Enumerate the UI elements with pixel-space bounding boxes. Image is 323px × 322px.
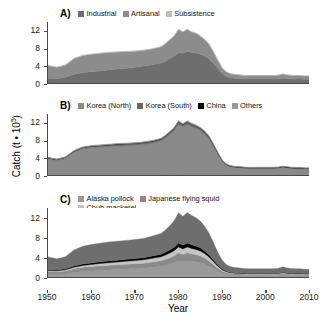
y-tick-mark <box>44 176 47 177</box>
legend-swatch-korea-north <box>78 103 84 109</box>
y-tick-mark <box>44 141 47 142</box>
panel-a-legend: IndustrialArtisanalSubsistence <box>78 9 221 18</box>
y-tick-mark <box>44 218 47 219</box>
panel-b-legend: Korea (North)Korea (South)ChinaOthers <box>78 101 268 110</box>
y-tick-label: 0 <box>20 80 40 89</box>
legend-label-korea-north: Korea (North) <box>87 101 132 110</box>
panel-a-letter: A) <box>60 8 71 19</box>
y-tick-mark <box>44 84 47 85</box>
legend-item-artisanal: Artisanal <box>123 9 160 18</box>
panel-a-plot-area <box>47 22 309 84</box>
legend-swatch-subsistence <box>166 11 172 17</box>
y-tick-mark <box>44 158 47 159</box>
x-tick-label: 1990 <box>212 293 231 302</box>
panel-b-letter: B) <box>60 100 71 111</box>
x-tick-label: 1950 <box>38 293 57 302</box>
panel-c: C) Alaska pollockJapanese flying squid C… <box>0 194 323 290</box>
legend-label-industrial: Industrial <box>87 9 117 18</box>
legend-swatch-japanese-flying-squid <box>140 196 146 202</box>
panel-c-letter: C) <box>60 194 71 205</box>
y-tick-mark <box>44 31 47 32</box>
legend-row-1: Alaska pollockJapanese flying squid <box>78 194 225 203</box>
legend-label-artisanal: Artisanal <box>131 9 160 18</box>
y-tick-mark <box>44 278 47 279</box>
panel-b-area-chart <box>48 114 309 175</box>
y-tick-label: 12 <box>20 118 40 127</box>
legend-item-subsistence: Subsistence <box>166 9 215 18</box>
legend-label-korea-south: Korea (South) <box>146 101 192 110</box>
x-tick-label: 2000 <box>256 293 275 302</box>
y-tick-mark <box>44 49 47 50</box>
y-tick-label: 8 <box>20 234 40 243</box>
panel-a: A) IndustrialArtisanalSubsistence 04812 <box>0 8 323 96</box>
x-axis: 1950196019701980199020002010 <box>47 290 309 302</box>
x-tick-label: 2010 <box>300 293 319 302</box>
legend-item-korea-north: Korea (North) <box>78 101 131 110</box>
x-tick-label: 1980 <box>169 293 188 302</box>
y-tick-mark <box>44 66 47 67</box>
legend-swatch-china <box>198 103 204 109</box>
y-tick-label: 4 <box>20 62 40 71</box>
legend-swatch-industrial <box>78 11 84 17</box>
x-tick-label: 1960 <box>81 293 100 302</box>
legend-item-alaska-pollock: Alaska pollock <box>78 194 134 203</box>
y-tick-label: 8 <box>20 136 40 145</box>
y-tick-label: 12 <box>20 26 40 35</box>
legend-swatch-korea-south <box>137 103 143 109</box>
legend-swatch-alaska-pollock <box>78 196 84 202</box>
y-tick-label: 4 <box>20 154 40 163</box>
legend-item-japanese-flying-squid: Japanese flying squid <box>140 194 220 203</box>
legend-label-subsistence: Subsistence <box>174 9 214 18</box>
y-tick-label: 8 <box>20 44 40 53</box>
panel-c-plot-area <box>47 208 309 278</box>
panel-b-plot-area <box>47 114 309 176</box>
x-axis-title: Year <box>47 303 309 314</box>
x-tick-label: 1970 <box>125 293 144 302</box>
legend-swatch-artisanal <box>123 11 129 17</box>
y-tick-mark <box>44 238 47 239</box>
y-tick-label: 0 <box>20 274 40 283</box>
legend-label-alaska-pollock: Alaska pollock <box>87 194 134 203</box>
panel-c-area-chart <box>48 208 309 277</box>
legend-item-industrial: Industrial <box>78 9 117 18</box>
y-tick-label: 4 <box>20 254 40 263</box>
y-tick-label: 0 <box>20 172 40 181</box>
legend-swatch-others-b <box>232 103 238 109</box>
y-tick-mark <box>44 123 47 124</box>
y-tick-mark <box>44 258 47 259</box>
panel-b: B) Korea (North)Korea (South)ChinaOthers… <box>0 100 323 188</box>
legend-label-japanese-flying-squid: Japanese flying squid <box>148 194 219 203</box>
legend-item-others-b: Others <box>232 101 263 110</box>
panel-a-area-chart <box>48 22 309 83</box>
legend-label-others-b: Others <box>240 101 262 110</box>
legend-item-korea-south: Korea (South) <box>137 101 192 110</box>
y-tick-label: 12 <box>20 214 40 223</box>
legend-item-china: China <box>198 101 226 110</box>
figure: Catch (t • 105) A) IndustrialArtisanalSu… <box>0 0 323 322</box>
legend-label-china: China <box>206 101 225 110</box>
